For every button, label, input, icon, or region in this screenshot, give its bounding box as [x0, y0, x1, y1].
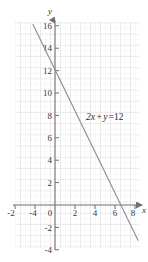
coordinate-plane-svg: 16 14 12 10 8 6 4 2 -2 -4 -2 -4 0 2 4 6 …: [0, 0, 148, 262]
x-tick-label-b: -4: [29, 208, 37, 218]
graph-figure: 16 14 12 10 8 6 4 2 -2 -4 -2 -4 0 2 4 6 …: [0, 0, 148, 262]
y-tick-label-2: 2: [48, 178, 53, 188]
y-tick-label-10: 10: [43, 88, 53, 98]
y-tick-label-12: 12: [43, 66, 52, 76]
equation-annotation: 2x+y=12: [86, 112, 124, 122]
equation-plus: +: [96, 112, 101, 122]
x-tick-label-2: 2: [73, 208, 78, 218]
equation-x-var: x: [90, 112, 96, 122]
x-tick-label-8: 8: [131, 208, 136, 218]
y-axis-label: y: [47, 6, 52, 16]
x-tick-label-6: 6: [113, 208, 118, 218]
y-tick-label-16: 16: [43, 21, 53, 31]
x-tick-label-origin: 0: [48, 208, 53, 218]
x-axis-label: x: [141, 205, 146, 215]
x-tick-label-4: 4: [93, 208, 98, 218]
y-tick-label-neg2: -2: [45, 223, 53, 233]
y-tick-label-neg4: -4: [45, 245, 53, 255]
y-tick-label-8: 8: [48, 111, 53, 121]
equation-y-var: y: [102, 112, 108, 122]
x-tick-label-a: -2: [7, 208, 15, 218]
svg-text:2x+y=12: 2x+y=12: [86, 112, 124, 122]
y-tick-label-6: 6: [48, 133, 53, 143]
y-tick-label-4: 4: [48, 155, 53, 165]
equation-constant: 12: [114, 112, 124, 122]
